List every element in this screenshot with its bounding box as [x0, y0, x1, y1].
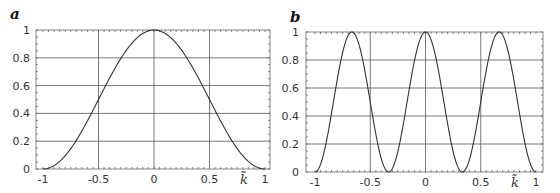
x-tick-label: -1: [310, 176, 321, 189]
x-tick-label: 1: [262, 173, 269, 186]
y-tick-label: 1: [292, 26, 299, 39]
y-tick-label: 0.2: [13, 135, 31, 148]
chart-panel-a: a00.20.40.60.81-1-0.500.51k̃: [10, 5, 270, 187]
x-axis-label: k̃: [240, 171, 248, 187]
y-tick-label: 0.8: [13, 52, 31, 65]
plot-frame: [306, 32, 543, 172]
y-tick-label: 0.6: [13, 80, 31, 93]
x-tick-label: 0: [422, 176, 429, 189]
x-axis-label: k̃: [511, 174, 519, 190]
x-tick-label: -0.5: [88, 173, 109, 186]
panel-label: b: [290, 8, 301, 26]
y-tick-label: 0.4: [282, 110, 300, 123]
y-tick-label: 1: [23, 24, 30, 37]
x-tick-label: 1: [533, 176, 540, 189]
x-tick-label: 0.5: [472, 176, 490, 189]
y-tick-label: 0.4: [13, 107, 31, 120]
y-tick-label: 0: [292, 166, 299, 179]
x-tick-label: -1: [38, 173, 49, 186]
panel-label: a: [10, 5, 20, 23]
chart-figure: a00.20.40.60.81-1-0.500.51k̃ b00.20.40.6…: [0, 0, 560, 193]
x-tick-label: 0: [151, 173, 158, 186]
x-tick-label: -0.5: [360, 176, 381, 189]
x-tick-label: 0.5: [201, 173, 219, 186]
y-tick-label: 0.2: [282, 138, 300, 151]
y-tick-label: 0.8: [282, 54, 300, 67]
y-tick-label: 0.6: [282, 82, 300, 95]
chart-panel-b: b00.20.40.60.81-1-0.500.51k̃: [282, 8, 544, 190]
y-tick-label: 0: [23, 163, 30, 176]
